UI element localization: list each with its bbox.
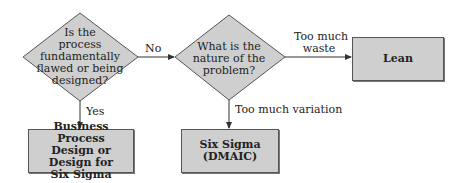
- decision-text-nature-of-problem: What is the nature of the problem?: [184, 41, 274, 77]
- decision-text-process-flawed: Is the process fundamentally flawed or b…: [36, 27, 124, 87]
- outcome-box-bpd-dfss: Business Process Design or Design for Si…: [28, 129, 134, 173]
- outcome-box-six-sigma-dmaic: Six Sigma (DMAIC): [181, 129, 279, 173]
- label-line: waste: [294, 43, 344, 55]
- box-line: Six Sigma: [29, 169, 133, 181]
- edge-label-too-much-variation: Too much variation: [235, 104, 342, 116]
- edge-label-yes: Yes: [86, 106, 104, 118]
- decision-line: designed?: [36, 75, 124, 87]
- box-line: Design or Design for: [29, 145, 133, 169]
- decision-line: problem?: [184, 65, 274, 77]
- edge-label-no: No: [145, 43, 161, 55]
- edge-label-too-much-waste: Too much waste: [294, 31, 344, 55]
- box-line: Business Process: [29, 121, 133, 145]
- outcome-box-lean: Lean: [352, 37, 444, 81]
